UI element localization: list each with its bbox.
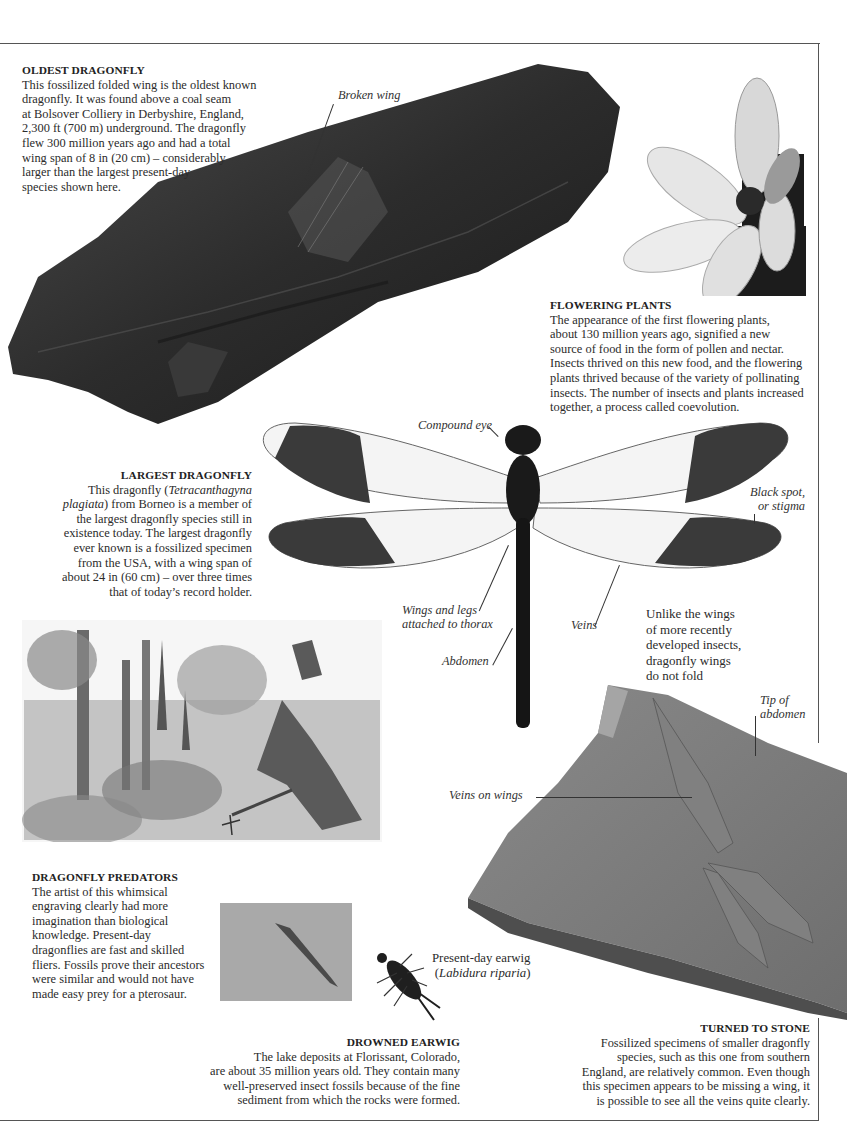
caption-turned-to-stone: TURNED TO STONE Fossilized specimens of …: [520, 1021, 810, 1109]
caption-flowering-plants: FLOWERING PLANTS The appearance of the f…: [550, 298, 820, 415]
body-line: knowledge. Present-day: [32, 928, 242, 943]
body-line: This fossilized folded wing is the oldes…: [22, 78, 322, 93]
label-line: or stigma: [750, 499, 805, 513]
heading-drowned-earwig: DROWNED EARWIG: [90, 1035, 460, 1050]
body-text: ) from Borneo is a member of: [104, 497, 252, 511]
body-line: flew 300 million years ago and had a tot…: [22, 136, 322, 151]
leader-veins-on-wings: [536, 797, 692, 798]
label-veins: Veins: [571, 618, 597, 632]
leader-tip-of-abdomen: [755, 716, 756, 756]
body-line: from the USA, with a wing span of: [30, 556, 252, 571]
caption-oldest-dragonfly: OLDEST DRAGONFLY This fossilized folded …: [22, 63, 322, 194]
body-line: the largest dragonfly species still in: [30, 512, 252, 527]
body-line: this specimen appears to be missing a wi…: [520, 1079, 810, 1094]
body-line: Unlike the wings: [646, 606, 741, 622]
label-compound-eye: Compound eye: [418, 418, 492, 432]
body-line: sediment from which the rocks were forme…: [90, 1093, 460, 1108]
body-line: ever known is a fossilized specimen: [30, 541, 252, 556]
body-line: The artist of this whimsical: [32, 885, 242, 900]
heading-dragonfly-predators: DRAGONFLY PREDATORS: [32, 870, 242, 885]
body-line: at Bolsover Colliery in Derbyshire, Engl…: [22, 107, 322, 122]
body-line: The appearance of the first flowering pl…: [550, 313, 820, 328]
label-broken-wing: Broken wing: [338, 88, 401, 102]
body-line: together, a process called coevolution.: [550, 400, 820, 415]
heading-oldest-dragonfly: OLDEST DRAGONFLY: [22, 63, 322, 78]
body-line: 2,300 ft (700 m) underground. The dragon…: [22, 121, 322, 136]
body-line: about 130 million years ago, signified a…: [550, 327, 820, 342]
heading-flowering-plants: FLOWERING PLANTS: [550, 298, 820, 313]
heading-turned-to-stone: TURNED TO STONE: [520, 1021, 810, 1036]
body-line: that of today’s record holder.: [30, 585, 252, 600]
right-rule-lower: [818, 1018, 819, 1120]
species-name: Tetracanthagyna: [168, 483, 252, 497]
caption-wings-do-not-fold: Unlike the wings of more recently develo…: [646, 606, 741, 684]
label-line: attached to thorax: [402, 617, 493, 631]
caption-largest-dragonfly: LARGEST DRAGONFLY This dragonfly (Tetrac…: [30, 468, 252, 599]
body-line: existence today. The largest dragonfly: [30, 526, 252, 541]
body-line: imagination than biological: [32, 914, 242, 929]
species-name: plagiata: [63, 497, 104, 511]
label-tip-of-abdomen: Tip of abdomen: [760, 693, 805, 722]
body-line: is possible to see all the veins quite c…: [520, 1094, 810, 1109]
body-line: source of food in the form of pollen and…: [550, 342, 820, 357]
body-line: This dragonfly (Tetracanthagyna: [30, 483, 252, 498]
body-line: engraving clearly had more: [32, 899, 242, 914]
body-line: species shown here.: [22, 180, 322, 195]
body-line: developed insects,: [646, 637, 741, 653]
heading-largest-dragonfly: LARGEST DRAGONFLY: [30, 468, 252, 483]
body-line: are about 35 million years old. They con…: [90, 1064, 460, 1079]
pterosaur-engraving-image: [22, 620, 382, 842]
body-line: plagiata) from Borneo is a member of: [30, 497, 252, 512]
body-line: species, such as this one from southern: [520, 1050, 810, 1065]
body-line: were similar and would not have: [32, 972, 242, 987]
body-line: insects. The number of insects and plant…: [550, 386, 820, 401]
body-line: wing span of 8 in (20 cm) – considerably: [22, 151, 322, 166]
leader-black-spot: [754, 514, 755, 524]
label-line: abdomen: [760, 707, 805, 721]
body-line: Insects thrived on this new food, and th…: [550, 356, 820, 371]
label-abdomen: Abdomen: [442, 654, 489, 668]
body-line: made easy prey for a pterosaur.: [32, 987, 242, 1002]
body-line: dragonfly. It was found above a coal sea…: [22, 92, 322, 107]
flower-image: [622, 76, 806, 296]
body-line: dragonfly wings: [646, 653, 741, 669]
caption-dragonfly-predators: DRAGONFLY PREDATORS The artist of this w…: [32, 870, 242, 1001]
body-line: fliers. Fossils prove their ancestors: [32, 958, 242, 973]
label-line: Black spot,: [750, 485, 805, 499]
caption-drowned-earwig: DROWNED EARWIG The lake deposits at Flor…: [90, 1035, 460, 1108]
label-line: Tip of: [760, 693, 805, 707]
body-line: do not fold: [646, 668, 741, 684]
body-line: The lake deposits at Florissant, Colorad…: [90, 1050, 460, 1065]
body-line: about 24 in (60 cm) – over three times: [30, 570, 252, 585]
body-line: well-preserved insect fossils because of…: [90, 1079, 460, 1094]
body-line: dragonflies are fast and skilled: [32, 943, 242, 958]
top-rule: [0, 43, 820, 44]
bottom-rule: [0, 1120, 819, 1121]
earwig-fossil-image: [220, 903, 352, 1001]
label-black-spot: Black spot, or stigma: [750, 485, 805, 514]
body-line: of more recently: [646, 622, 741, 638]
body-line: Fossilized specimens of smaller dragonfl…: [520, 1036, 810, 1051]
body-line: plants thrived because of the variety of…: [550, 371, 820, 386]
label-veins-on-wings: Veins on wings: [449, 788, 523, 802]
stone-fossil-image: [468, 683, 847, 1020]
body-text: This dragonfly (: [88, 483, 169, 497]
body-line: larger than the largest present-day: [22, 165, 322, 180]
body-line: England, are relatively common. Even tho…: [520, 1065, 810, 1080]
